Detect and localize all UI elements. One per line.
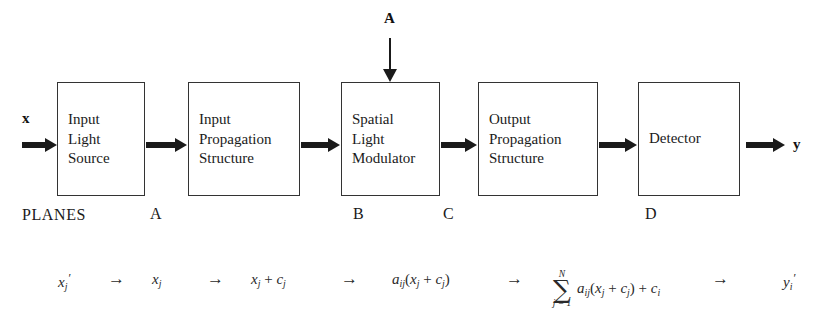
plane-letter-d: D [645,205,657,223]
eq-t1-prime: ′ [67,271,71,285]
planes-title: PLANES [22,206,86,224]
eq-t4-a: a [392,271,400,287]
eq-t5-cisub: i [657,287,660,298]
plane-letter-a: A [150,205,162,223]
block-label-spatial-light-modulator: Spatial Light Modulator [352,110,415,169]
block-spatial-light-modulator: Spatial Light Modulator [341,82,440,196]
sigma-icon: ∑ [547,279,577,301]
equation-term-4: aij(xj + cj) [392,271,450,289]
input-matrix-a-label: A [384,10,395,27]
eq-t2-base: x [152,271,159,287]
eq-t6-base: y [783,274,790,290]
eq-t4-plus: + [419,271,435,287]
equation-term-2: xj [152,271,161,289]
equation-term-6: yi′ [783,271,796,292]
eq-t4-x: x [410,271,417,287]
input-vector-x-label: x [22,110,30,127]
output-vector-y-label: y [793,136,801,153]
eq-t1-base: x [58,274,65,290]
block-label-detector: Detector [649,129,701,149]
eq-t3-base: x [251,271,258,287]
eq-t5-plus: + [604,280,620,296]
block-input-propagation-structure: Input Propagation Structure [188,82,300,196]
eq-t3-plus: + [260,271,276,287]
block-label-output-propagation-structure: Output Propagation Structure [489,110,562,169]
equation-arrow-1: → [108,269,125,289]
equation-term-3: xj + cj [251,271,286,289]
equation-arrow-5: → [712,269,729,289]
eq-t6-prime: ′ [792,271,796,285]
block-output-propagation-structure: Output Propagation Structure [478,82,598,196]
eq-t5-plus2: + [635,280,651,296]
plane-letter-b: B [353,205,364,223]
block-label-input-propagation-structure: Input Propagation Structure [199,110,272,169]
equation-arrow-3: → [341,269,358,289]
eq-t3-csub: j [283,278,286,289]
equation-arrow-4: → [506,269,523,289]
eq-t5-a: a [577,280,585,296]
block-detector: Detector [638,82,740,196]
block-label-input-light-source: Input Light Source [68,110,110,169]
equation-term-1: xj′ [58,271,71,292]
sum-lower-limit: j = 1 [547,299,577,309]
eq-t2-sub: j [159,278,162,289]
plane-letter-c: C [443,205,454,223]
equation-arrow-2: → [207,269,224,289]
eq-t4-close: ) [445,271,450,287]
summation-operator: N ∑ j = 1 [547,270,577,309]
eq-t5-x: x [595,280,602,296]
block-input-light-source: Input Light Source [57,82,145,196]
equation-term-5: N ∑ j = 1 aij(xj + cj) + ci [547,270,660,309]
optical-matrix-vector-processor-diagram: x Input Light Source Input Propagation S… [0,0,836,315]
